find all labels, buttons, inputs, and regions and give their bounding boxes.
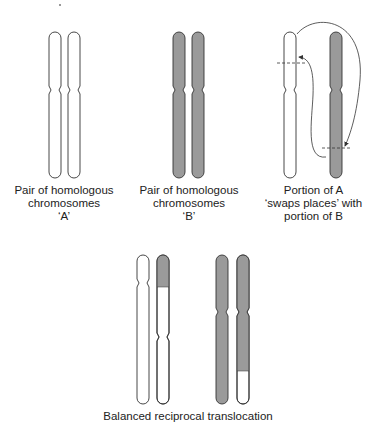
arrow-a-to-b <box>297 22 360 146</box>
pair-b-chromosomes <box>173 32 204 178</box>
label-line: chromosomes <box>4 197 124 210</box>
stray-mark <box>59 4 61 6</box>
label-line: portion of B <box>251 210 376 223</box>
label-line: ‘A’ <box>4 210 124 223</box>
label-line: Pair of homologous <box>4 184 124 197</box>
pair-a-chromosomes <box>49 32 80 178</box>
label-line: ‘swaps places’ with <box>251 197 376 210</box>
swap-chromosomes <box>284 32 342 178</box>
label-line: chromosomes <box>129 197 249 210</box>
arrow-b-to-a <box>299 57 326 157</box>
pair-b-label: Pair of homologous chromosomes ‘B’ <box>129 184 249 223</box>
swap-label: Portion of A ‘swaps places’ with portion… <box>251 184 376 223</box>
result-label: Balanced reciprocal translocation <box>88 410 288 423</box>
result-chromosomes <box>137 255 249 404</box>
label-line: ‘B’ <box>129 210 249 223</box>
label-line: Pair of homologous <box>129 184 249 197</box>
pair-a-label: Pair of homologous chromosomes ‘A’ <box>4 184 124 223</box>
label-line: Portion of A <box>251 184 376 197</box>
